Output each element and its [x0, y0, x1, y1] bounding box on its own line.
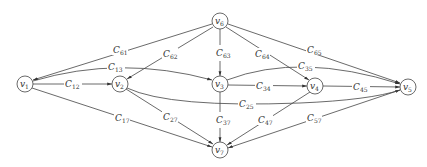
edge-label-c17: C17 [114, 112, 130, 124]
edge-label-c65: C65 [306, 44, 322, 56]
edge-label-c27: C27 [162, 111, 178, 123]
node-v7: v7 [212, 142, 228, 158]
edge-label-c45: C45 [352, 81, 370, 93]
node-v1: v1 [17, 76, 33, 92]
edge-label-c64: C64 [254, 48, 270, 60]
edge-label-c63: C63 [214, 45, 231, 61]
edge-label-c47: C47 [257, 114, 273, 126]
node-v5: v5 [400, 79, 416, 95]
edge-label-c61: C61 [112, 44, 128, 56]
node-v2: v2 [112, 76, 128, 92]
node-v4: v4 [307, 78, 323, 94]
edge-label-c35: C35 [297, 60, 315, 72]
node-v3: v3 [212, 76, 228, 92]
edge-label-c37: C37 [214, 112, 231, 128]
edge-label-c57: C57 [306, 112, 322, 124]
graph-diagram: C61 C62 C63 C64 C65 C13 C12 C35 C34 C45 … [0, 0, 427, 167]
edge-label-c62: C62 [162, 48, 178, 60]
edge-label-c34: C34 [255, 80, 273, 92]
edge-label-c25: C25 [238, 98, 256, 110]
node-v6: v6 [212, 13, 228, 29]
edge-label-c13: C13 [107, 61, 125, 73]
edge-label-c12: C12 [64, 78, 82, 90]
